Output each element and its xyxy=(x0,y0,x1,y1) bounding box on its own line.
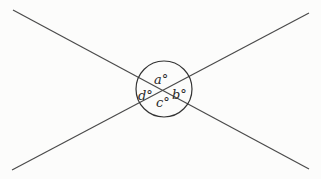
angle-label-c: c° xyxy=(156,95,170,110)
angle-diagram: a° b° c° d° xyxy=(0,0,321,179)
line-2 xyxy=(12,13,309,170)
diagram-canvas: a° b° c° d° xyxy=(0,0,321,179)
angle-label-b: b° xyxy=(172,87,187,102)
line-1 xyxy=(13,10,309,169)
angle-label-a: a° xyxy=(154,72,168,87)
angle-label-d: d° xyxy=(138,88,153,103)
